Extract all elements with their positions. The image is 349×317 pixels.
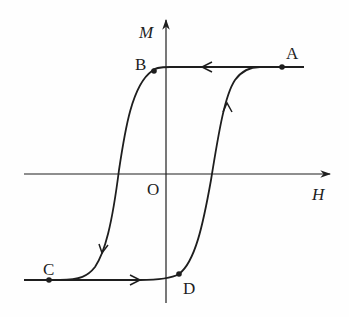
point-b-label: B [135, 56, 146, 73]
point-a-dot [279, 64, 285, 70]
origin-label: O [147, 181, 159, 198]
point-c-label: C [43, 261, 54, 278]
h-axis-label: H [312, 186, 324, 203]
hysteresis-diagram: M H O A B C D [0, 0, 349, 317]
point-a-label: A [286, 45, 298, 62]
m-axis-label: M [139, 24, 153, 41]
arrow-right-up-icon [223, 103, 232, 112]
point-d-dot [176, 271, 182, 277]
point-b-dot [151, 68, 157, 74]
point-d-label: D [183, 280, 195, 297]
